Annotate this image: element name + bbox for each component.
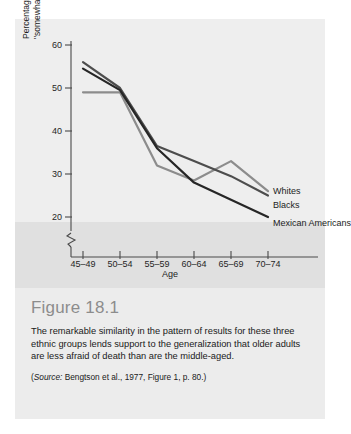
y-tick-label-20: 20 bbox=[37, 212, 62, 222]
x-tick-label-55-59: 55–59 bbox=[139, 259, 175, 269]
line-chart-plot bbox=[15, 19, 325, 288]
x-tick-label-45-49: 45–49 bbox=[65, 259, 101, 269]
figure-source-line: (Source: Bengtson et al., 1977, Figure 1… bbox=[31, 372, 309, 382]
figure-number: Figure 18.1 bbox=[31, 298, 309, 318]
x-tick-label-70-74: 70–74 bbox=[250, 259, 286, 269]
y-axis-title: Percentage "very afraid" or "somewhat af… bbox=[21, 0, 43, 39]
y-tick-label-30: 30 bbox=[37, 169, 62, 179]
legend-label-mexican-line2: Americans bbox=[309, 218, 351, 228]
series-line-blacks bbox=[83, 62, 268, 195]
x-tick-label-60-64: 60–64 bbox=[176, 259, 212, 269]
source-rest: Bengtson et al., 1977, Figure 1, p. 80.) bbox=[62, 372, 206, 382]
legend-label-blacks: Blacks bbox=[273, 200, 300, 211]
source-word: Source: bbox=[34, 372, 63, 382]
y-axis-title-line1: Percentage "very afraid" or bbox=[21, 0, 32, 39]
y-tick-label-60: 60 bbox=[37, 40, 62, 50]
x-tick-label-50-54: 50–54 bbox=[102, 259, 138, 269]
figure-caption-block: Figure 18.1 The remarkable similarity in… bbox=[15, 288, 325, 419]
legend-label-whites: Whites bbox=[273, 186, 301, 197]
y-tick-label-50: 50 bbox=[37, 83, 62, 93]
y-axis-title-line2: "somewhat afraid" of death bbox=[32, 0, 43, 39]
figure-caption-text: The remarkable similarity in the pattern… bbox=[31, 325, 309, 363]
legend-label-mexican-line1: Mexican bbox=[273, 218, 307, 228]
figure-container: 60 50 40 30 20 45–49 50–54 55–59 60–64 6… bbox=[15, 19, 325, 419]
series-line-mexican-americans bbox=[83, 69, 268, 217]
y-tick-label-40: 40 bbox=[37, 126, 62, 136]
y-axis-break-icon bbox=[67, 233, 75, 247]
chart-panel: 60 50 40 30 20 45–49 50–54 55–59 60–64 6… bbox=[15, 19, 325, 288]
x-tick-label-65-69: 65–69 bbox=[213, 259, 249, 269]
series-line-whites bbox=[83, 92, 268, 191]
legend-label-mexican-americans: Mexican Americans bbox=[273, 218, 351, 229]
x-axis-title: Age bbox=[15, 269, 325, 279]
